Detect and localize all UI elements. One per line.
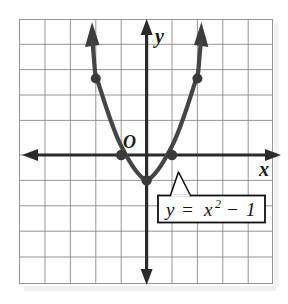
graph-figure: y x O y = x 2 − 1	[0, 0, 288, 304]
equation-equals-sign: =	[181, 199, 194, 220]
equation-exponent-two: 2	[215, 197, 221, 211]
equation-constant-one: 1	[246, 199, 256, 220]
parabola-right-tail	[198, 42, 201, 72]
equation-var-x: x	[203, 199, 213, 220]
coordinate-plane-svg: y x O y = x 2 − 1	[0, 0, 288, 304]
data-point	[192, 74, 202, 84]
equation-var-y: y	[164, 199, 175, 220]
origin-label: O	[123, 132, 136, 152]
data-point	[167, 150, 177, 160]
y-axis-label: y	[153, 25, 164, 48]
data-point	[91, 74, 101, 84]
parabola-left-tail	[93, 42, 95, 72]
x-axis-label: x	[258, 158, 269, 180]
data-point	[141, 175, 151, 185]
equation-minus-sign: −	[226, 199, 239, 220]
figure-shadow-bottom	[24, 286, 276, 291]
